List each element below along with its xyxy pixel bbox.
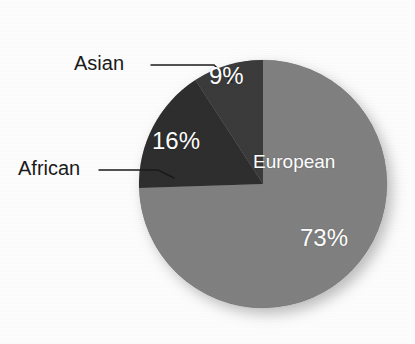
pie-slices-group bbox=[139, 60, 387, 308]
slice-value-european: 73% bbox=[300, 224, 348, 252]
slice-label-asian: Asian bbox=[74, 52, 124, 75]
slice-label-european: European bbox=[253, 151, 335, 173]
slice-value-asian: 9% bbox=[209, 62, 244, 90]
slice-value-african: 16% bbox=[152, 127, 200, 155]
slice-label-african: African bbox=[18, 157, 80, 180]
pie-chart-figure: Asian African European 73% 16% 9% bbox=[0, 0, 415, 344]
